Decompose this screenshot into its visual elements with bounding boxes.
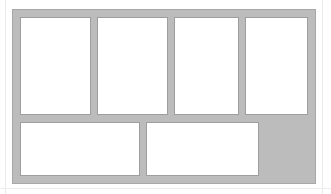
layout-template-frame[interactable] (13, 10, 315, 183)
layout-slot-2[interactable] (97, 17, 168, 115)
bottom-margin-guide (0, 188, 331, 189)
layout-slot-4[interactable] (245, 17, 308, 115)
left-margin-guide (5, 0, 6, 194)
layout-slot-1[interactable] (20, 17, 91, 115)
right-margin-guide (322, 0, 323, 194)
page-canvas (0, 0, 331, 194)
layout-slot-7-unused[interactable] (265, 122, 308, 176)
layout-slot-3[interactable] (174, 17, 239, 115)
layout-slot-6[interactable] (146, 122, 259, 176)
layout-grid (13, 10, 315, 183)
layout-slot-5[interactable] (20, 122, 140, 176)
